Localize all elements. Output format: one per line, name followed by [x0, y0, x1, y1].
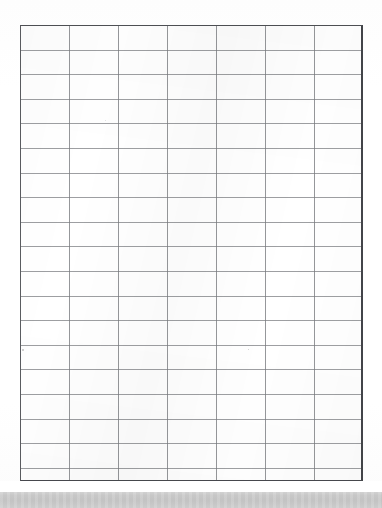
scanner-bed-band	[0, 492, 382, 508]
scanner-bed-texture	[0, 492, 382, 508]
blank-grid[interactable]	[20, 25, 363, 481]
scanned-page	[0, 0, 382, 508]
page-bottom-gap	[0, 481, 382, 492]
